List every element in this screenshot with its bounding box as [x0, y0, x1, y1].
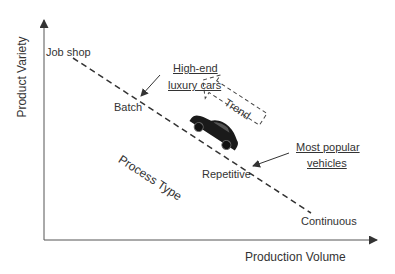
popular-pointer-arrow — [253, 153, 289, 166]
diagram-canvas — [0, 0, 395, 274]
point-label-batch: Batch — [114, 101, 142, 113]
x-axis-label: Production Volume — [245, 250, 346, 264]
popular-label-line1: Most popular — [296, 141, 360, 153]
point-label-job-shop: Job shop — [46, 46, 91, 58]
high-end-label-line2: luxury cars — [168, 79, 221, 91]
high-end-pointer-arrow — [141, 75, 160, 96]
popular-label-line2: vehicles — [307, 157, 347, 169]
point-label-repetitive: Repetitive — [202, 168, 251, 180]
y-axis-label: Product Variety — [15, 32, 29, 122]
high-end-label-line1: High-end — [173, 62, 218, 74]
point-label-continuous: Continuous — [301, 215, 357, 227]
